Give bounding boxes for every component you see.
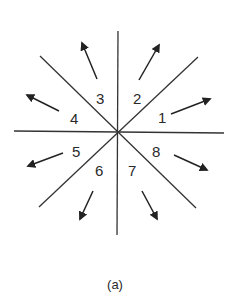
sector-label-6: 6 [95, 162, 103, 179]
sector-label-2: 2 [133, 90, 141, 107]
arrow-icon-sector-7 [142, 191, 157, 219]
arrow-icon-sector-6 [80, 191, 93, 219]
sector-label-5: 5 [72, 143, 80, 160]
arrow-icon-sector-1 [171, 99, 210, 114]
sector-label-1: 1 [158, 109, 166, 126]
arrow-icon-sector-3 [82, 43, 97, 79]
arrow-icon-sector-4 [27, 95, 59, 111]
sector-dividers [14, 31, 224, 235]
sector-label-8: 8 [152, 143, 160, 160]
sector-label-7: 7 [128, 162, 136, 179]
sector-label-4: 4 [70, 110, 78, 127]
arrow-icon-sector-5 [28, 153, 63, 166]
arrow-icon-sector-8 [174, 155, 207, 170]
figure-caption: (a) [107, 277, 123, 292]
sector-label-3: 3 [96, 90, 104, 107]
sector-diagram: 12345678 (a) [0, 0, 229, 299]
arrow-icon-sector-2 [139, 45, 159, 80]
